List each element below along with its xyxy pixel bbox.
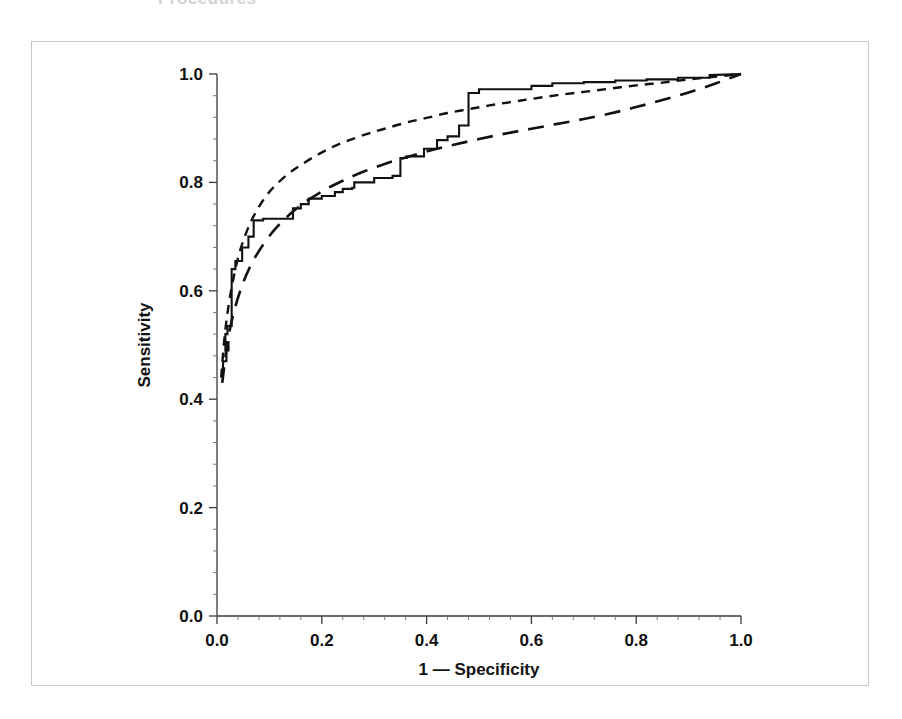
series-empirical-roc <box>222 74 741 378</box>
y-tick-label: 0.4 <box>179 390 203 409</box>
plot-axes <box>217 74 741 616</box>
series-fitted-roc-lower <box>222 74 741 383</box>
page-canvas: Procedures 0.00.20.40.60.81.0 0.00.20.40… <box>0 0 902 719</box>
x-tick-label: 1.0 <box>729 631 753 650</box>
roc-chart: 0.00.20.40.60.81.0 0.00.20.40.60.81.0 Se… <box>32 42 870 687</box>
y-tick-label: 1.0 <box>179 65 203 84</box>
x-tick-label: 0.0 <box>205 631 229 650</box>
x-axis-tick-labels: 0.00.20.40.60.81.0 <box>205 631 753 650</box>
y-tick-label: 0.6 <box>179 282 203 301</box>
x-axis-ticks <box>217 616 741 624</box>
y-axis-tick-labels: 0.00.20.40.60.81.0 <box>179 65 203 626</box>
y-axis-title: Sensitivity <box>135 302 154 388</box>
x-tick-label: 0.4 <box>415 631 439 650</box>
roc-chart-svg: 0.00.20.40.60.81.0 0.00.20.40.60.81.0 Se… <box>32 42 870 687</box>
y-tick-label: 0.2 <box>179 499 203 518</box>
x-tick-label: 0.2 <box>310 631 334 650</box>
x-axis-title: 1 — Specificity <box>419 660 540 679</box>
y-tick-label: 0.8 <box>179 173 203 192</box>
x-tick-label: 0.6 <box>520 631 544 650</box>
y-axis-ticks <box>209 74 217 616</box>
clipped-header-strip: Procedures <box>0 0 902 14</box>
y-tick-label: 0.0 <box>179 607 203 626</box>
roc-series-group <box>221 74 741 383</box>
x-tick-label: 0.8 <box>624 631 648 650</box>
figure-frame: 0.00.20.40.60.81.0 0.00.20.40.60.81.0 Se… <box>31 41 869 686</box>
series-fitted-roc-upper <box>221 74 741 378</box>
page-title: Procedures <box>158 0 257 9</box>
